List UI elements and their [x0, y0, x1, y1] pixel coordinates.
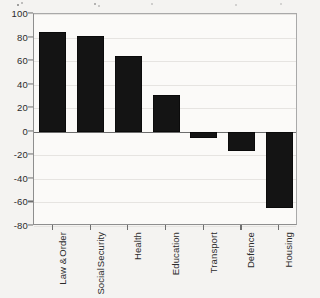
y-axis-tick-mark [28, 83, 33, 84]
y-axis-tick-mark [28, 224, 33, 225]
gridline [34, 202, 296, 203]
gridline [34, 14, 296, 15]
y-axis-tick-mark [28, 201, 33, 202]
y-axis-tick-label: -40 [2, 172, 28, 183]
y-axis-tick-label: -20 [2, 149, 28, 160]
x-axis-tick-label-line: Health [132, 232, 143, 260]
bar [190, 132, 217, 138]
bar [228, 132, 255, 151]
x-axis-tick-mark [90, 225, 91, 230]
x-axis-tick-label-line: Social [95, 268, 106, 294]
x-axis-tick-mark [203, 225, 204, 230]
x-axis-tick-mark [127, 225, 128, 230]
x-axis-tick-label: Defence [245, 232, 289, 298]
y-axis-tick-mark [28, 177, 33, 178]
gridline [34, 85, 296, 86]
y-axis-tick-label: 60 [2, 55, 28, 66]
y-axis-tick-label: 80 [2, 31, 28, 42]
bar [39, 32, 66, 132]
gridline [34, 61, 296, 62]
y-axis-tick-mark [28, 154, 33, 155]
x-axis-tick-label-line: Law & [57, 258, 68, 285]
x-axis-tick-label-line: Security [95, 232, 106, 267]
y-axis-tick-label: -80 [2, 220, 28, 231]
y-axis-tick-label: 100 [2, 8, 28, 19]
x-axis-tick-mark [240, 225, 241, 230]
y-axis-tick-mark [28, 107, 33, 108]
x-axis-tick-label-line: Defence [245, 232, 256, 268]
y-axis-tick-label: -60 [2, 196, 28, 207]
y-axis-tick-mark [28, 12, 33, 13]
x-axis-tick-label-line: Housing [283, 232, 294, 268]
x-axis-tick-label-line: Order [57, 232, 68, 257]
y-axis-tick-label: 40 [2, 78, 28, 89]
x-axis-tick-label: Education [170, 232, 214, 298]
zero-baseline [34, 132, 296, 133]
y-axis-tick-label: 0 [2, 125, 28, 136]
y-axis-tick-mark [28, 130, 33, 131]
x-axis-tick-label-line: Education [170, 232, 181, 275]
y-axis-tick-label: 20 [2, 102, 28, 113]
x-axis-tick-mark [165, 225, 166, 230]
bar [266, 132, 293, 209]
bar [115, 56, 142, 131]
x-axis-tick-label: Housing [283, 232, 320, 298]
y-axis-tick-mark [28, 36, 33, 37]
gridline [34, 155, 296, 156]
x-axis-tick-mark [278, 225, 279, 230]
x-axis-tick-label: SocialSecurity [95, 232, 139, 298]
x-axis-tick-label-line: Transport [208, 232, 219, 273]
gridline [34, 179, 296, 180]
gridline [34, 38, 296, 39]
bar [77, 36, 104, 131]
bar [153, 95, 180, 132]
x-axis-tick-mark [52, 225, 53, 230]
x-axis-tick-label: Health [132, 232, 176, 298]
x-axis-tick-label: Transport [208, 232, 252, 298]
plot-area [33, 13, 297, 225]
x-axis-tick-label: Law &Order [57, 232, 101, 298]
y-axis-tick-mark [28, 60, 33, 61]
